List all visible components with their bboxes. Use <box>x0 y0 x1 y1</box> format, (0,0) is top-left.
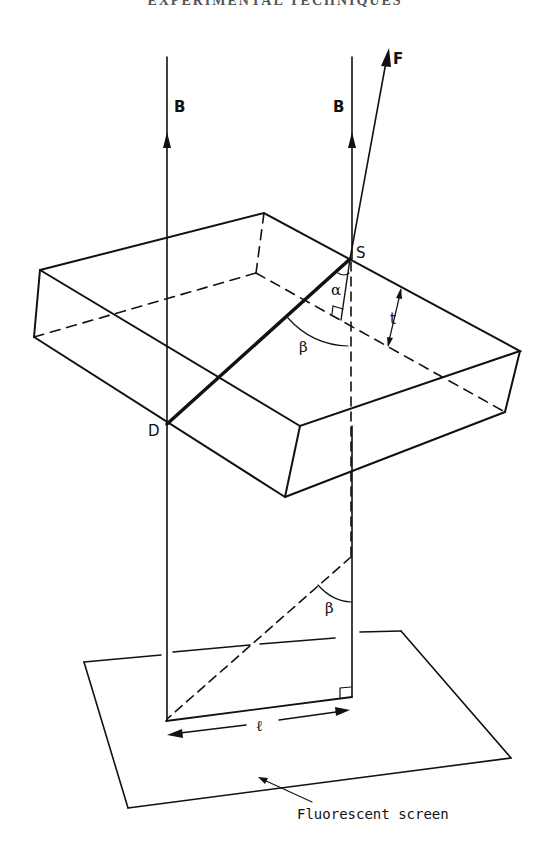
screen-caption: Fluorescent screen <box>297 806 449 822</box>
fluorescent-screen <box>84 631 511 808</box>
beam-line-right <box>348 57 356 697</box>
point-s-label: S <box>356 244 366 262</box>
arrow-icon <box>381 48 391 67</box>
beta-arc-slab <box>288 318 348 346</box>
beta-arc-screen <box>318 585 351 602</box>
thickness-label: t <box>390 310 396 328</box>
right-angle-mark <box>332 306 343 314</box>
right-angle-mark <box>340 687 351 698</box>
force-label: F <box>393 50 403 68</box>
beam-line-left <box>163 57 171 721</box>
force-vector <box>350 48 391 259</box>
point-d-label: D <box>148 422 160 440</box>
alpha-label: α <box>331 281 341 299</box>
arrow-up-icon <box>163 132 171 148</box>
beta-label-screen: β <box>325 599 334 617</box>
crystal-slab-diagram: B B F S D α β t β ℓ Fluorescent screen <box>0 0 550 862</box>
length-label: ℓ <box>256 717 263 735</box>
crystal-slab <box>34 213 520 497</box>
beam-label-left: B <box>174 98 185 116</box>
beam-label-right: B <box>333 98 344 116</box>
arrow-up-icon <box>348 132 356 148</box>
beta-label-slab: β <box>299 338 308 356</box>
